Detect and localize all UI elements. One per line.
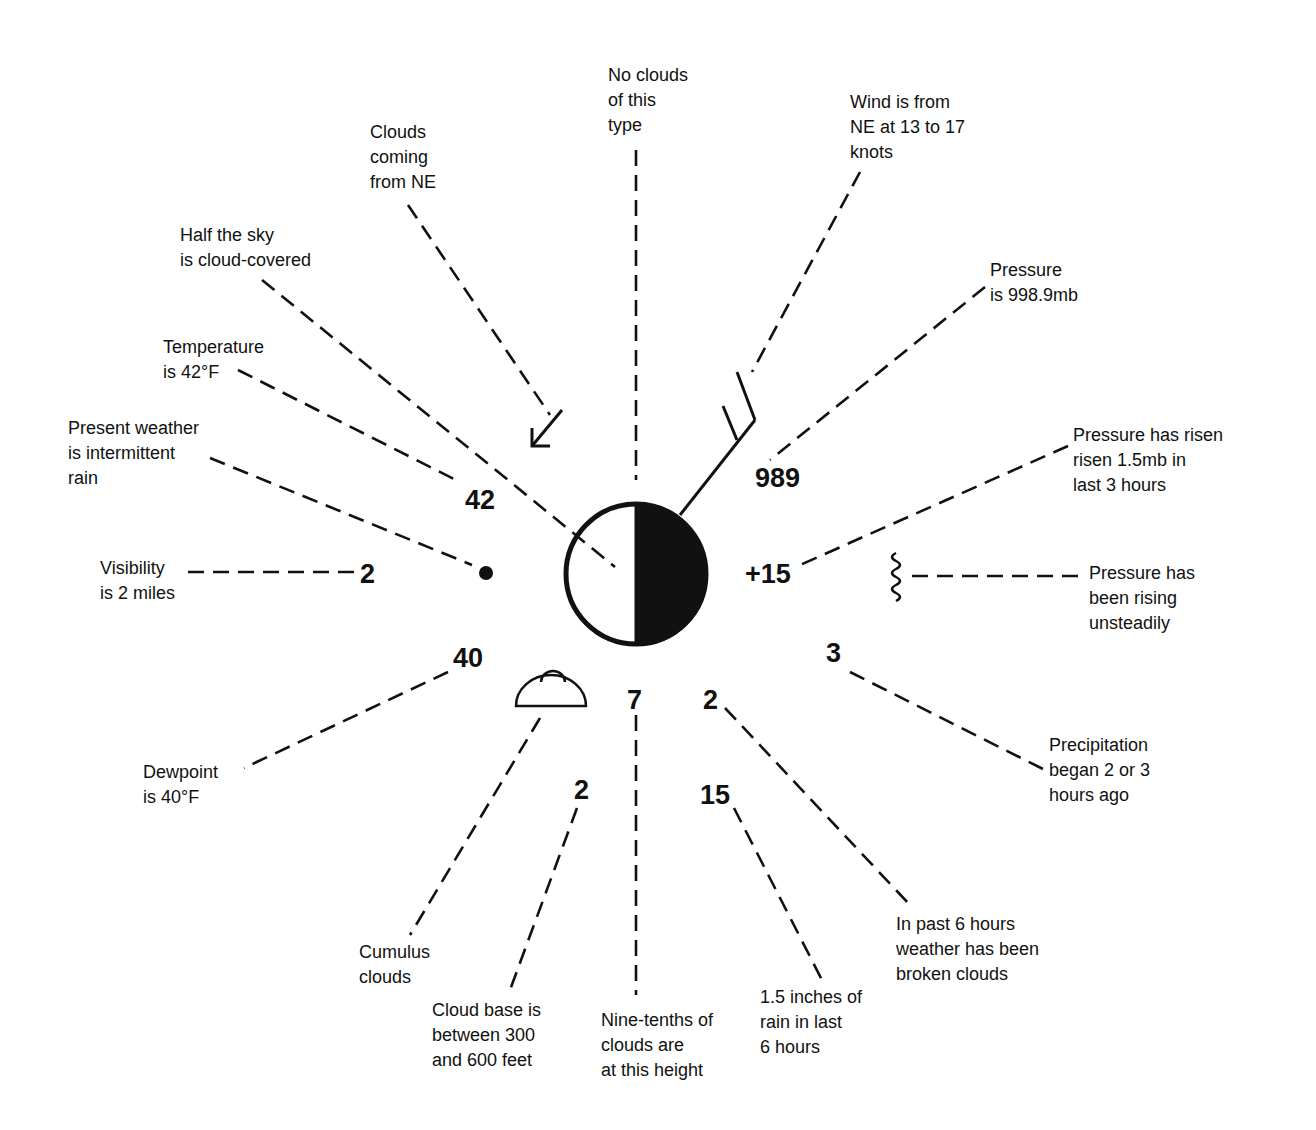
label-pressure-rising: Pressure has been rising unsteadily — [1089, 561, 1195, 636]
pressure-change-value: +15 — [745, 559, 791, 590]
label-precipitation: Precipitation began 2 or 3 hours ago — [1049, 733, 1150, 808]
leader-present-weather — [210, 458, 472, 565]
present-weather-dot-icon — [479, 566, 493, 580]
leader-rain — [734, 808, 822, 980]
label-past-weather: In past 6 hours weather has been broken … — [896, 912, 1039, 987]
leader-half-sky — [262, 280, 615, 567]
label-rain: 1.5 inches of rain in last 6 hours — [760, 985, 862, 1060]
visibility-value: 2 — [360, 559, 375, 590]
cloud-height-value: 7 — [627, 685, 642, 716]
rainfall-value: 15 — [700, 780, 730, 811]
leader-dewpoint — [244, 672, 448, 768]
past-weather-value: 2 — [703, 685, 718, 716]
leader-clouds-ne — [408, 205, 550, 415]
label-visibility: Visibility is 2 miles — [100, 556, 175, 606]
leader-wind — [752, 172, 860, 372]
leader-precipitation — [850, 672, 1045, 770]
pressure-value: 989 — [755, 463, 800, 494]
station-circle-icon — [566, 502, 708, 646]
label-nine-tenths: Nine-tenths of clouds are at this height — [601, 1008, 713, 1083]
label-no-clouds: No clouds of this type — [608, 63, 688, 138]
label-dewpoint: Dewpoint is 40°F — [143, 760, 218, 810]
pressure-tendency-squiggle-icon — [892, 553, 900, 601]
wind-barb-icon — [680, 372, 755, 515]
cloud-direction-arrow-icon — [532, 410, 562, 446]
leader-pressure-risen — [800, 446, 1068, 565]
label-pressure: Pressure is 998.9mb — [990, 258, 1078, 308]
precip-time-value: 3 — [826, 638, 841, 669]
label-temperature: Temperature is 42°F — [163, 335, 264, 385]
leader-pressure — [770, 287, 985, 460]
label-cumulus: Cumulus clouds — [359, 940, 430, 990]
dewpoint-value: 40 — [453, 643, 483, 674]
leader-cloud-base — [510, 808, 577, 990]
leader-cumulus — [410, 718, 540, 935]
leader-past-weather — [725, 708, 910, 905]
label-half-sky: Half the sky is cloud-covered — [180, 223, 311, 273]
label-present-weather: Present weather is intermittent rain — [68, 416, 199, 491]
label-pressure-risen: Pressure has risen risen 1.5mb in last 3… — [1073, 423, 1223, 498]
label-wind: Wind is from NE at 13 to 17 knots — [850, 90, 965, 165]
cumulus-cloud-icon — [516, 671, 586, 706]
label-cloud-base: Cloud base is between 300 and 600 feet — [432, 998, 541, 1073]
label-clouds-ne: Clouds coming from NE — [370, 120, 436, 195]
leader-temperature — [238, 370, 460, 482]
temperature-value: 42 — [465, 485, 495, 516]
cloud-base-value: 2 — [574, 775, 589, 806]
